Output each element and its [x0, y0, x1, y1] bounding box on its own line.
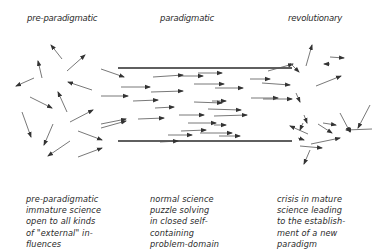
arrow — [151, 91, 183, 92]
arrow — [300, 146, 322, 148]
arrow — [214, 115, 247, 116]
arrow — [78, 148, 102, 157]
arrow — [30, 97, 52, 108]
arrow — [101, 121, 126, 128]
arrow — [262, 83, 290, 85]
chaotic-arrows-revolutionary — [262, 45, 372, 164]
arrow — [67, 55, 85, 71]
description-line: pre-paradigmatic — [26, 194, 101, 205]
arrow — [208, 109, 241, 110]
arrow — [330, 57, 344, 58]
arrow — [290, 126, 308, 134]
arrow — [38, 61, 42, 78]
arrow — [300, 123, 303, 130]
description-line: of "external" in- — [26, 228, 101, 239]
arrow — [306, 45, 312, 66]
arrow — [358, 105, 370, 128]
description-revolutionary: crisis in maturescience leadingto the es… — [277, 194, 345, 250]
arrow — [340, 113, 350, 132]
description-line: fluences — [26, 239, 101, 250]
arrow — [78, 131, 102, 140]
arrow — [155, 107, 174, 108]
description-paradigmatic: normal sciencepuzzle solvingin closed se… — [150, 194, 219, 250]
arrow — [48, 141, 70, 156]
arrow — [16, 78, 34, 86]
arrow — [101, 119, 126, 124]
arrow — [51, 45, 62, 59]
chaotic-arrows-pre-paradigmatic — [16, 45, 126, 157]
description-line: normal science — [150, 194, 219, 205]
arrow — [304, 115, 307, 123]
arrow — [133, 100, 158, 101]
arrow — [318, 124, 332, 133]
arrow — [194, 102, 222, 103]
arrow — [346, 129, 372, 130]
arrow — [68, 82, 92, 90]
arrow — [138, 118, 164, 119]
arrow — [323, 123, 336, 125]
parallel-arrows-paradigmatic — [101, 69, 278, 142]
arrow — [298, 138, 304, 140]
description-pre-paradigmatic: pre-paradigmaticimmature scienceopen to … — [26, 194, 101, 250]
arrow — [304, 150, 310, 164]
arrow — [44, 124, 53, 145]
description-line: science leading — [277, 205, 345, 216]
description-line: ment of a new — [277, 228, 345, 239]
description-line: to the establish- — [277, 216, 345, 227]
arrow — [181, 130, 206, 131]
description-line: paradigm — [277, 239, 345, 250]
description-line: immature science — [26, 205, 101, 216]
arrow — [101, 69, 124, 77]
description-line: containing — [150, 228, 219, 239]
arrow — [58, 92, 67, 112]
description-line: open to all kinds — [26, 216, 101, 227]
description-line: in closed self- — [150, 216, 219, 227]
arrow — [70, 110, 93, 122]
arrow — [153, 75, 183, 77]
arrow — [22, 112, 31, 137]
arrow — [296, 93, 300, 102]
description-line: crisis in mature — [277, 194, 345, 205]
description-line: puzzle solving — [150, 205, 219, 216]
description-line: problem-domain — [150, 239, 219, 250]
arrow — [316, 76, 341, 86]
arrow — [311, 138, 340, 144]
